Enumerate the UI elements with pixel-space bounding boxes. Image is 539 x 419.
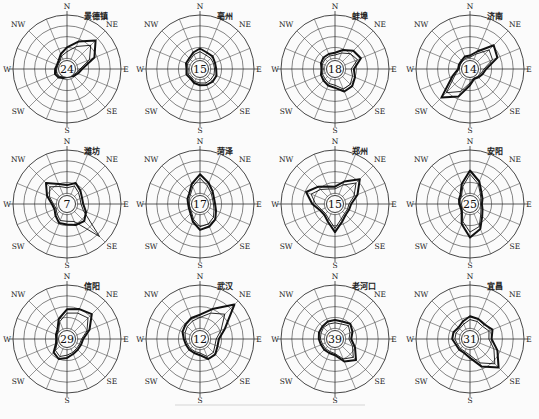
wind-rose-10: 12NNEESESSWWNW武汉 [133,272,268,405]
direction-label-ne: NE [509,290,521,299]
direction-label-s: S [197,261,202,270]
spoke [297,166,328,197]
direction-label-sw: SW [415,377,428,386]
spoke [479,73,520,90]
direction-label-n: N [64,137,71,146]
direction-label-s: S [64,126,69,135]
direction-label-n: N [467,137,474,146]
direction-label-s: S [467,126,472,135]
direction-label-e: E [391,65,396,74]
caption-faint-line [175,404,365,406]
calm-value: 39 [328,333,342,346]
wind-rose-grid: 24NNEESESSWWNW景德镇15NNEESESSWWNW亳州18NNEES… [0,0,539,400]
direction-label-ne: NE [106,290,118,299]
spoke [209,73,250,90]
station-name: 信阳 [84,280,100,291]
wind-rose-7: 15NNEESESSWWNW郑州 [268,137,403,270]
spoke [285,48,326,65]
wind-rose-plot: 15NNEESESSWWNW [268,137,403,270]
spoke [162,346,193,377]
spoke [449,154,466,195]
wind-rose-plot: 24NNEESESSWWNW [0,2,135,135]
direction-label-se: SE [510,107,521,116]
spoke [17,183,58,200]
wind-rose-9: 29NNEESESSWWNW信阳 [0,272,135,405]
station-name: 潍坊 [84,145,100,156]
wind-rose-plot: 17NNEESESSWWNW [133,137,268,270]
spoke [314,78,331,119]
direction-label-sw: SW [280,107,293,116]
wind-rose-2: 15NNEESESSWWNW亳州 [133,2,268,135]
direction-label-w: W [406,200,414,209]
direction-label-nw: NW [144,290,159,299]
spoke [17,208,58,225]
direction-label-s: S [332,261,337,270]
spoke [342,76,373,107]
direction-label-se: SE [375,107,386,116]
spoke [449,348,466,389]
spoke [17,343,58,360]
direction-label-ne: NE [374,20,386,29]
direction-label-w: W [271,335,279,344]
direction-label-se: SE [240,107,251,116]
direction-label-se: SE [375,377,386,386]
direction-label-n: N [64,272,71,281]
wind-rose-11: 39NNEESESSWWNW老河口 [268,272,403,405]
direction-label-n: N [332,272,339,281]
spoke [477,301,508,332]
spoke [285,343,326,360]
spoke [71,78,88,119]
direction-label-e: E [256,200,261,209]
direction-label-ne: NE [374,290,386,299]
direction-label-ne: NE [106,20,118,29]
spoke [432,31,463,62]
direction-label-w: W [136,335,144,344]
wind-rose-plot: 18NNEESESSWWNW [268,2,403,135]
direction-label-nw: NW [144,155,159,164]
spoke [479,208,520,225]
direction-label-ne: NE [239,155,251,164]
spoke [344,343,385,360]
spoke [162,166,193,197]
spoke [420,48,461,65]
spoke [29,76,60,107]
spoke [432,211,463,242]
wind-rose-1: 24NNEESESSWWNW景德镇 [0,2,135,135]
spoke [432,346,463,377]
spoke [17,318,58,335]
spoke [479,183,520,200]
direction-label-se: SE [240,377,251,386]
spoke [162,211,193,242]
direction-label-nw: NW [11,155,26,164]
wind-rose-plot: 14NNEESESSWWNW [403,2,538,135]
direction-label-ne: NE [374,155,386,164]
spoke [29,301,60,332]
wind-rose-4: 14NNEESESSWWNW济南 [403,2,538,135]
spoke [150,208,191,225]
spoke [179,348,196,389]
direction-label-w: W [271,200,279,209]
spoke [162,76,193,107]
direction-label-n: N [197,137,204,146]
direction-label-sw: SW [415,107,428,116]
direction-label-w: W [136,200,144,209]
spoke [17,48,58,65]
direction-label-nw: NW [144,20,159,29]
direction-label-sw: SW [145,107,158,116]
station-name: 安阳 [487,145,503,156]
spoke [432,166,463,197]
spoke [479,318,520,335]
direction-label-ne: NE [239,290,251,299]
direction-label-e: E [391,335,396,344]
calm-value: 15 [193,63,207,76]
spoke [342,211,373,242]
spoke [474,154,491,195]
direction-label-nw: NW [11,290,26,299]
spoke [207,166,238,197]
wind-rose-8: 25NNEESESSWWNW安阳 [403,137,538,270]
spoke [76,318,117,335]
series-outer [183,305,235,359]
spoke [342,31,373,62]
wind-rose-plot: 7NNEESESSWWNW [0,137,135,270]
spoke [474,78,491,119]
